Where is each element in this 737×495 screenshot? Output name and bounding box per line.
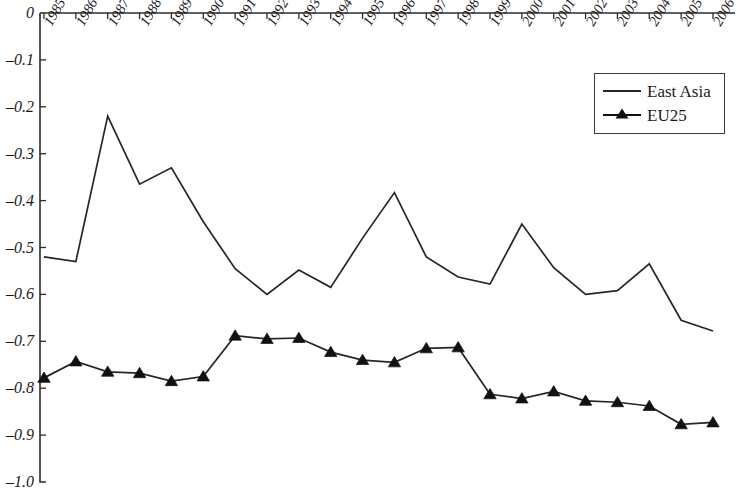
y-tick-label: –0.2 xyxy=(0,99,34,115)
legend-item-eu25: EU25 xyxy=(602,103,717,127)
y-tick-label: –0.7 xyxy=(0,333,34,349)
data-series xyxy=(38,116,719,429)
y-tick-label: –0.1 xyxy=(0,52,34,68)
data-point-marker xyxy=(707,417,719,427)
legend-label-east-asia: East Asia xyxy=(647,83,711,100)
y-tick-label: –0.9 xyxy=(0,427,34,443)
y-tick-label: –0.4 xyxy=(0,193,34,209)
legend-triangle-swatch-icon xyxy=(602,105,642,125)
legend-item-east-asia: East Asia xyxy=(602,79,717,103)
legend-line-swatch-icon xyxy=(602,81,642,101)
y-tick-label: –0.5 xyxy=(0,240,34,256)
data-point-marker xyxy=(484,388,496,398)
y-tick-label: 0 xyxy=(0,5,34,21)
chart-legend: East Asia EU25 xyxy=(594,73,725,134)
data-point-marker xyxy=(325,346,337,356)
data-point-marker xyxy=(70,356,82,366)
y-tick-label: –1.0 xyxy=(0,474,34,490)
y-tick-label: –0.3 xyxy=(0,146,34,162)
line-chart: 0–0.1–0.2–0.3–0.4–0.5–0.6–0.7–0.8–0.9–1.… xyxy=(0,0,737,495)
y-tick-label: –0.6 xyxy=(0,286,34,302)
series-line-east-asia xyxy=(44,116,713,331)
data-point-marker xyxy=(548,386,560,396)
y-tick-label: –0.8 xyxy=(0,380,34,396)
legend-label-eu25: EU25 xyxy=(647,107,687,124)
series-line-eu25 xyxy=(44,336,713,425)
data-point-marker xyxy=(229,330,241,340)
